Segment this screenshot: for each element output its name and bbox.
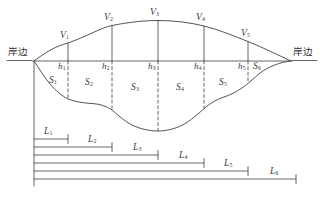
distance-label-6: L6 [270,167,279,177]
distance-label-3: L3 [133,143,142,153]
depth-label-1: h1 [58,62,66,72]
depth-label-2: h2 [102,62,110,72]
velocity-label-4: V4 [196,13,205,23]
velocity-distribution-curve [34,21,291,62]
depth-label-5: h5 [238,62,246,72]
distance-label-2: L2 [88,135,97,145]
velocity-label-1: V1 [60,31,69,41]
river-cross-section-diagram: 岸边 岸边 V1 V2 V3 V4 V5 h1 h2 h3 h4 h5 S1 S… [0,0,330,200]
velocity-label-2: V2 [104,13,113,23]
area-label-6: S6 [253,62,261,72]
depth-label-4: h4 [194,62,202,72]
area-label-4: S4 [176,83,184,93]
area-label-3: S3 [131,83,139,93]
area-label-2: S2 [85,78,93,88]
velocity-label-5: V5 [241,29,250,39]
distance-label-4: L4 [179,151,188,161]
area-label-1: S1 [49,76,57,86]
distance-label-1: L1 [44,127,53,137]
depth-label-3: h3 [148,62,156,72]
diagram-canvas [0,0,330,200]
distance-label-5: L5 [224,159,233,169]
velocity-label-3: V3 [150,8,159,18]
bank-label-left: 岸边 [8,44,29,58]
bank-label-right: 岸边 [293,44,314,58]
area-label-5: S5 [219,78,227,88]
